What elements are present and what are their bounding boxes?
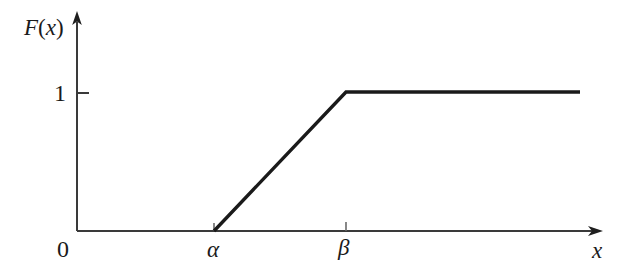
x-axis-label: x [592, 239, 602, 262]
y-tick-label-1: 1 [54, 81, 66, 105]
y-axis-label-close-paren: ) [56, 15, 64, 40]
x-tick-label-alpha: α [207, 238, 219, 261]
y-axis-label-base: F [24, 15, 38, 40]
y-axis-label: F(x) [24, 16, 64, 39]
x-tick-label-beta: β [338, 236, 349, 259]
plot-canvas [0, 0, 628, 277]
y-axis-label-var: x [46, 15, 56, 40]
cdf-curve [214, 92, 580, 231]
origin-label: 0 [57, 237, 69, 261]
figure-cdf-uniform: F(x) 1 0 α β x [0, 0, 628, 277]
y-axis-label-open-paren: ( [38, 15, 46, 40]
